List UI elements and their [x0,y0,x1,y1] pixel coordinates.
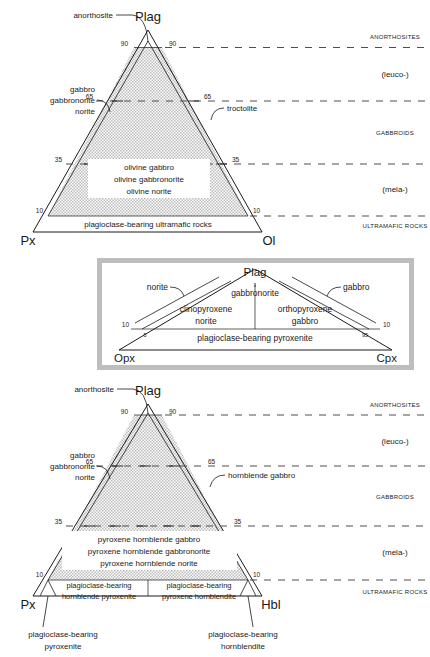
side-category-ultramafic: ULTRAMAFIC ROCKS [363,223,428,229]
tick-left-90: 90 [121,40,129,47]
inset-tick-right-95: 95 [362,332,368,338]
bottom-base-right-line1: plagioclase-bearing [166,581,231,590]
inset-base-band: plagioclase-bearing pyroxenite [197,333,313,343]
bottom-apex-label-hbl: Hbl [261,597,281,612]
center-box-line1: olivine gabbro [124,163,174,172]
bottom-apex-label-px: Px [20,597,36,612]
tick-left-10: 10 [36,207,44,214]
top-ternary-diagram: Plag Px Ol 90 90 65 65 35 35 10 10 anort… [0,0,430,255]
bottom-callout-hornblende-gabbro: hornblende gabbro [228,471,296,480]
inset-tick-left-10: 10 [122,321,130,328]
bottom-center-box-line3: pyroxene hornblende norite [100,559,198,568]
callout-left-group-line1: gabbro [70,85,95,94]
bottom-base-left-line1: plagioclase-bearing [66,581,131,590]
apex-label-ol: Ol [263,233,276,248]
bottom-callout-left-group-line2: gabbronorite [50,462,95,471]
bottom-tick-left-35: 35 [55,518,63,525]
bottom-tick-left-10: 10 [36,571,44,578]
bottom-tick-right-90: 90 [169,408,177,415]
inset-apex-cpx: Cpx [377,352,398,364]
bottom-ternary-diagram: Plag Px Hbl 90 90 65 65 35 35 10 10 anor… [0,375,430,657]
bottom-side-category-leuco: (leuco-) [381,437,408,446]
bottom-below-left-line1: plagioclase-bearing [28,630,97,639]
bottom-tick-right-10: 10 [253,571,261,578]
side-category-leuco: (leuco-) [381,70,408,79]
bottom-side-category-gabbroids: GABBROIDS [376,494,414,500]
callout-left-group-line2: gabbronorite [50,96,95,105]
side-category-anorthosites: ANORTHOSITES [370,34,420,40]
inset-tick-left-5: 5 [143,332,146,338]
bottom-callout-left-group-line1: gabbro [70,451,95,460]
callout-left-group-line3: norite [75,107,96,116]
inset-field-right-line1: orthopyroxene [278,304,333,314]
bottom-callout-left-group-line3: norite [75,473,96,482]
apex-label-px: Px [20,233,36,248]
side-category-mela: (mela-) [382,185,408,194]
callout-troctolite: troctolite [227,104,258,113]
inset-ternary-diagram: Plag Opx Cpx norite gabbro gabbronorite … [102,263,409,365]
bottom-tick-right-35: 35 [234,518,242,525]
side-category-gabbroids: GABBROIDS [376,130,414,136]
inset-field-left-line2: norite [195,316,217,326]
inset-callout-norite: norite [147,282,169,292]
bottom-center-box-line1: pyroxene hornblende gabbro [98,535,201,544]
bottom-side-category-mela: (mela-) [382,548,408,557]
inset-field-right-line2: gabbro [292,316,319,326]
tick-right-35: 35 [232,156,240,163]
tick-right-10: 10 [253,207,261,214]
callout-anorthosite: anorthosite [73,11,113,20]
inset-tick-right-10: 10 [383,321,391,328]
bottom-side-category-anorthosites: ANORTHOSITES [370,402,420,408]
inset-apex-plag: Plag [243,266,266,278]
inset-field-left-line1: clinopyroxene [180,304,233,314]
center-box-line2: olivine gabbronorite [114,175,184,184]
bottom-below-right-line1: plagioclase-bearing [208,630,277,639]
apex-label-plag: Plag [135,9,161,24]
bottom-base-left-line2: hornblende pyroxenite [62,592,136,601]
tick-right-90: 90 [169,40,177,47]
center-box-line3: olivine norite [127,187,172,196]
tick-right-65: 65 [204,93,212,100]
tick-left-35: 35 [55,156,63,163]
bottom-below-right-line2: hornblendite [221,642,266,651]
bottom-tick-right-65: 65 [208,458,216,465]
base-band-label: plagioclase-bearing ultramafic rocks [84,220,212,229]
bottom-tick-left-90: 90 [121,408,129,415]
inset-callout-gabbro: gabbro [343,282,370,292]
bottom-side-category-ultramafic: ULTRAMAFIC ROCKS [363,589,428,595]
bottom-center-box-line2: pyroxene hornblende gabbronorite [88,547,211,556]
inset-callout-gabbronorite: gabbronorite [231,288,279,298]
bottom-callout-anorthosite: anorthosite [74,385,114,394]
bottom-base-right-line2: pyroxene hornblendite [162,592,236,601]
inset-apex-opx: Opx [114,352,135,364]
bottom-below-left-line2: pyroxenite [45,642,82,651]
